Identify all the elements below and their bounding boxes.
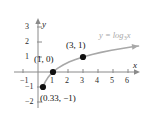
function-label-argument: x	[127, 30, 131, 40]
data-point	[80, 54, 86, 60]
function-equation-label: y = log3x	[99, 30, 130, 41]
data-point-label: (1, 0)	[34, 55, 54, 64]
x-axis-tick-label: 5	[110, 77, 114, 85]
x-axis-tick-label: 6	[125, 77, 129, 85]
y-axis-tick-label: 3	[25, 23, 29, 31]
x-axis-arrowhead	[134, 69, 140, 74]
y-axis-tick-label: −2	[25, 98, 34, 106]
y-axis-tick-label: 1	[25, 53, 29, 61]
y-axis-arrowhead	[35, 18, 40, 24]
data-point	[40, 84, 46, 90]
y-axis-tick-label: 2	[25, 38, 29, 46]
x-axis-tick-label: 4	[95, 77, 99, 85]
y-axis-label: y	[42, 20, 46, 29]
data-point-label: (3, 1)	[66, 41, 86, 50]
x-axis-tick-label: 3	[80, 77, 84, 85]
logarithm-graph-figure: −1123456321−1−2(1, 0)(3, 1)(0.33, −1)xyy…	[0, 0, 149, 131]
function-label-text: y = log	[99, 30, 124, 40]
x-axis-tick-label: 2	[65, 77, 69, 85]
y-axis-tick-label: −1	[25, 83, 34, 91]
x-axis-tick-label: 1	[50, 77, 54, 85]
plot-canvas	[0, 0, 149, 131]
x-axis-label: x	[133, 61, 137, 70]
data-point-label: (0.33, −1)	[40, 94, 76, 103]
data-point	[50, 69, 56, 75]
